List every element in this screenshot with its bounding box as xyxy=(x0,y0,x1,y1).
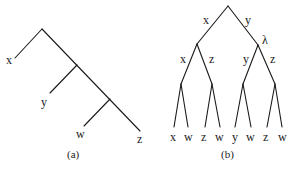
edge-y xyxy=(50,65,77,93)
edge-leaf-2 xyxy=(181,84,188,127)
caption-a: (a) xyxy=(67,148,80,161)
tree-b: x y λ x z y z x w z w y w z w (b) xyxy=(170,6,287,161)
leaf-label-w: w xyxy=(76,127,85,141)
edge-label-root-x: x xyxy=(203,13,209,27)
edge-label-root-y: y xyxy=(245,13,251,27)
edge-leaf-8 xyxy=(275,84,282,127)
edge-leaf-5 xyxy=(235,84,243,127)
edge-leaf-1 xyxy=(174,84,181,127)
caption-b: (b) xyxy=(221,148,234,161)
edge-root-right xyxy=(228,6,258,45)
leaf-label-7: z xyxy=(263,130,268,144)
leaf-label-2: w xyxy=(184,130,193,144)
leaf-label-5: y xyxy=(232,130,238,144)
edge-label-lr: z xyxy=(209,52,214,66)
leaf-label-x: x xyxy=(6,53,12,67)
leaf-label-y: y xyxy=(41,95,47,109)
leaf-label-1: x xyxy=(170,130,176,144)
edge-label-rl: y xyxy=(243,52,249,66)
edge-leaf-3 xyxy=(205,84,212,127)
figure: x y w z (a) x y λ x z y z x w z w xyxy=(0,0,291,169)
edge-root-left xyxy=(197,6,228,44)
edge-leaf-4 xyxy=(212,84,220,127)
edge-label-rr: z xyxy=(270,52,275,66)
tree-a: x y w z (a) xyxy=(6,29,142,161)
leaf-label-4: w xyxy=(215,130,224,144)
edge-root-x xyxy=(15,29,42,58)
node-label-lambda: λ xyxy=(262,33,268,47)
leaf-label-8: w xyxy=(278,130,287,144)
leaf-label-3: z xyxy=(201,130,206,144)
edge-spine xyxy=(42,29,140,131)
edge-leaf-7 xyxy=(267,84,275,127)
edge-leaf-6 xyxy=(243,84,251,127)
leaf-label-6: w xyxy=(246,130,255,144)
edge-label-ll: x xyxy=(180,52,186,66)
edge-w xyxy=(84,99,110,126)
leaf-label-z: z xyxy=(137,132,142,146)
